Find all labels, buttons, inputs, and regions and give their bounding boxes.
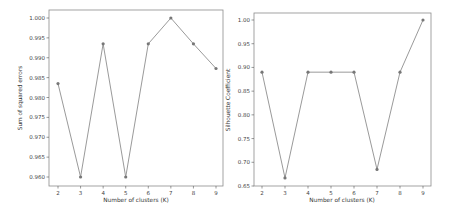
x-tick-label: 2 <box>56 190 60 196</box>
data-point-marker <box>283 176 286 179</box>
data-point-marker <box>169 16 172 19</box>
y-tick-label: 1.00 <box>238 17 251 23</box>
data-point-marker <box>260 71 263 74</box>
y-tick-label: 0.960 <box>29 174 45 180</box>
y-axis-label: Silhouette Coefficient <box>225 68 231 131</box>
x-tick-label: 7 <box>169 190 173 196</box>
y-tick-label: 0.975 <box>29 114 45 120</box>
figure: 0.9600.9650.9700.9750.9800.9850.9900.995… <box>0 0 452 213</box>
x-tick-label: 3 <box>79 190 83 196</box>
y-tick-label: 0.65 <box>238 183 251 189</box>
data-line <box>262 20 423 178</box>
data-point-marker <box>375 168 378 171</box>
x-tick-label: 4 <box>101 190 105 196</box>
x-tick-label: 6 <box>352 190 356 196</box>
sse-chart: 0.9600.9650.9700.9750.9800.9850.9900.995… <box>17 10 223 203</box>
y-tick-label: 0.995 <box>29 35 45 41</box>
x-tick-label: 9 <box>214 190 218 196</box>
data-point-marker <box>352 71 355 74</box>
y-tick-label: 0.970 <box>29 134 45 140</box>
y-tick-label: 0.95 <box>238 41 251 47</box>
x-tick-label: 6 <box>147 190 151 196</box>
x-tick-label: 9 <box>421 190 425 196</box>
y-tick-label: 0.80 <box>238 112 251 118</box>
x-tick-label: 3 <box>283 190 287 196</box>
data-point-marker <box>306 71 309 74</box>
y-tick-label: 0.990 <box>29 55 45 61</box>
x-axis-label: Number of clusters (K) <box>103 197 168 203</box>
data-point-marker <box>192 42 195 45</box>
axes-frame <box>49 10 223 186</box>
data-point-marker <box>147 42 150 45</box>
y-tick-label: 0.985 <box>29 75 45 81</box>
data-point-marker <box>214 67 217 70</box>
y-tick-label: 0.70 <box>238 159 251 165</box>
y-tick-label: 1.000 <box>29 15 45 21</box>
x-tick-label: 5 <box>329 190 333 196</box>
y-tick-label: 0.85 <box>238 88 251 94</box>
axes-frame <box>254 13 431 186</box>
data-point-marker <box>421 18 424 21</box>
x-tick-label: 5 <box>124 190 128 196</box>
x-tick-label: 8 <box>192 190 196 196</box>
x-axis-label: Number of clusters (K) <box>309 197 374 203</box>
data-point-marker <box>124 175 127 178</box>
data-point-marker <box>56 82 59 85</box>
silhouette-chart: 0.650.700.750.800.850.900.951.0023456789… <box>225 13 431 203</box>
y-tick-label: 0.965 <box>29 154 45 160</box>
x-tick-label: 8 <box>398 190 402 196</box>
x-tick-label: 7 <box>375 190 379 196</box>
y-tick-label: 0.980 <box>29 95 45 101</box>
x-tick-label: 2 <box>260 190 264 196</box>
data-point-marker <box>398 71 401 74</box>
y-tick-label: 0.75 <box>238 136 251 142</box>
data-point-marker <box>79 175 82 178</box>
data-line <box>58 18 216 177</box>
y-axis-label: Sum of squared errors <box>17 66 24 131</box>
x-tick-label: 4 <box>306 190 310 196</box>
data-point-marker <box>329 71 332 74</box>
data-point-marker <box>102 42 105 45</box>
y-tick-label: 0.90 <box>238 64 251 70</box>
